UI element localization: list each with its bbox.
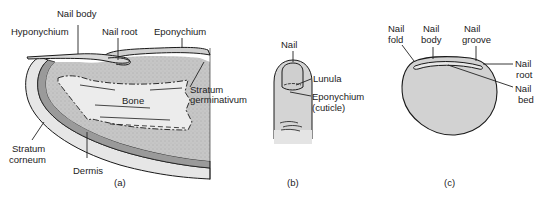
label-eponychium-b-line2: (cuticle) bbox=[312, 102, 345, 113]
caption-c: (c) bbox=[444, 177, 455, 188]
panel-c-cross-section bbox=[402, 57, 497, 135]
label-stratum-germinativum-line2: germinativum bbox=[190, 94, 247, 105]
label-hyponychium: Hyponychium bbox=[11, 26, 69, 37]
caption-a: (a) bbox=[114, 177, 126, 188]
label-nail: Nail bbox=[281, 39, 297, 50]
label-eponychium: Eponychium bbox=[154, 26, 206, 37]
label-nail-groove-line1: Nail bbox=[464, 23, 480, 34]
panel-b-fingertip-dorsal bbox=[274, 60, 312, 144]
label-lunula: Lunula bbox=[313, 73, 342, 84]
label-bone: Bone bbox=[122, 95, 144, 106]
label-stratum-corneum-line2: corneum bbox=[9, 154, 46, 165]
label-nail-body-c-line1: Nail bbox=[423, 23, 439, 34]
label-nail-bed-line2: bed bbox=[518, 94, 534, 105]
nail-outline bbox=[282, 63, 303, 90]
label-nail-fold-line1: Nail bbox=[388, 23, 404, 34]
label-nail-root-c-line1: Nail bbox=[515, 58, 531, 69]
label-nail-root: Nail root bbox=[102, 26, 138, 37]
panel-a-longitudinal-section bbox=[26, 47, 210, 180]
label-nail-root-c-line2: root bbox=[516, 69, 533, 80]
label-nail-groove-line2: groove bbox=[462, 34, 491, 45]
label-eponychium-b-line1: Eponychium bbox=[312, 91, 364, 102]
nail-anatomy-figure: Nail body Hyponychium Nail root Eponychi… bbox=[0, 0, 545, 198]
label-nail-bed-line1: Nail bbox=[515, 83, 531, 94]
label-nail-fold-line2: fold bbox=[388, 34, 403, 45]
label-stratum-corneum-line1: Stratum bbox=[12, 143, 45, 154]
label-dermis: Dermis bbox=[73, 165, 103, 176]
label-nail-body: Nail body bbox=[57, 8, 97, 19]
label-nail-body-c-line2: body bbox=[421, 34, 442, 45]
caption-b: (b) bbox=[287, 177, 299, 188]
